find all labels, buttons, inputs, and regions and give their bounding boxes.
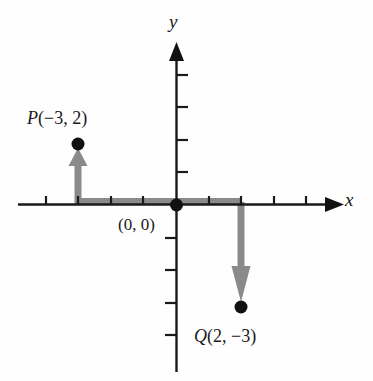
y-axis-label: y — [169, 12, 177, 31]
point-p-label: P(−3, 2) — [27, 109, 87, 127]
x-axis-label: x — [345, 190, 353, 209]
point-q-label-name: Q — [194, 326, 207, 346]
point-q-label: Q(2, −3) — [194, 327, 256, 345]
plot-canvas — [0, 0, 373, 381]
point-q-label-coords: (2, −3) — [207, 326, 256, 346]
point-p[interactable] — [72, 138, 85, 151]
point-p-label-coords: (−3, 2) — [38, 108, 87, 128]
point-q[interactable] — [235, 301, 248, 314]
coordinate-plane-figure: x y P(−3, 2) Q(2, −3) (0, 0) — [0, 0, 373, 381]
point-origin[interactable] — [170, 199, 183, 212]
point-p-label-name: P — [27, 108, 38, 128]
origin-label: (0, 0) — [118, 216, 155, 233]
q-vertical-arrow — [232, 202, 251, 302]
